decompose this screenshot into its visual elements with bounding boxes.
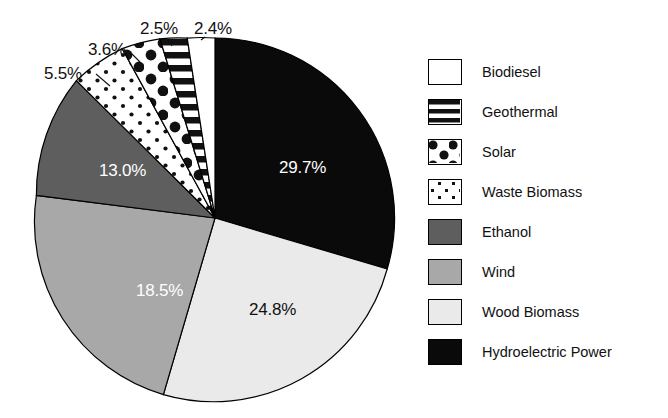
legend-label-ethanol: Ethanol — [482, 224, 531, 240]
swatch-stripes-icon — [428, 99, 462, 125]
legend-item-ethanol[interactable]: Ethanol — [428, 212, 664, 252]
swatch-blank-icon — [428, 59, 462, 85]
legend-item-geothermal[interactable]: Geothermal — [428, 92, 664, 132]
legend-item-waste-biomass[interactable]: Waste Biomass — [428, 172, 664, 212]
legend-label-wind: Wind — [482, 264, 515, 280]
pie-chart-svg — [0, 0, 420, 418]
swatch-large-dots-icon — [428, 139, 462, 165]
legend-label-biodiesel: Biodiesel — [482, 64, 541, 80]
legend-item-wind[interactable]: Wind — [428, 252, 664, 292]
swatch-dark-grey-icon — [428, 219, 462, 245]
pie-chart-figure: 29.7% 24.8% 18.5% 13.0% 5.5% 3.6% 2.5% 2… — [0, 0, 668, 418]
legend-label-geothermal: Geothermal — [482, 104, 558, 120]
chart-legend: Biodiesel Geothermal Solar Waste Biomass… — [428, 52, 664, 372]
legend-label-wood-biomass: Wood Biomass — [482, 304, 579, 320]
slice-value-wind: 18.5% — [136, 281, 183, 301]
legend-label-waste-biomass: Waste Biomass — [482, 184, 582, 200]
legend-item-biodiesel[interactable]: Biodiesel — [428, 52, 664, 92]
legend-label-hydroelectric-power: Hydroelectric Power — [482, 344, 612, 360]
slice-value-geothermal: 2.5% — [140, 19, 178, 39]
swatch-black-icon — [428, 339, 462, 365]
legend-item-solar[interactable]: Solar — [428, 132, 664, 172]
legend-label-solar: Solar — [482, 144, 516, 160]
legend-item-hydroelectric-power[interactable]: Hydroelectric Power — [428, 332, 664, 372]
swatch-light-grey-icon — [428, 299, 462, 325]
slice-value-wood-biomass: 24.8% — [249, 300, 296, 320]
slice-value-hydroelectric-power: 29.7% — [279, 158, 326, 178]
pie-chart-plot-area: 29.7% 24.8% 18.5% 13.0% 5.5% 3.6% 2.5% 2… — [0, 0, 420, 418]
slice-value-solar: 3.6% — [88, 40, 126, 60]
slice-value-waste-biomass: 5.5% — [44, 64, 82, 84]
slice-value-biodiesel: 2.4% — [194, 19, 232, 39]
swatch-mid-grey-icon — [428, 259, 462, 285]
swatch-small-dots-icon — [428, 179, 462, 205]
slice-value-ethanol: 13.0% — [99, 161, 146, 181]
legend-item-wood-biomass[interactable]: Wood Biomass — [428, 292, 664, 332]
